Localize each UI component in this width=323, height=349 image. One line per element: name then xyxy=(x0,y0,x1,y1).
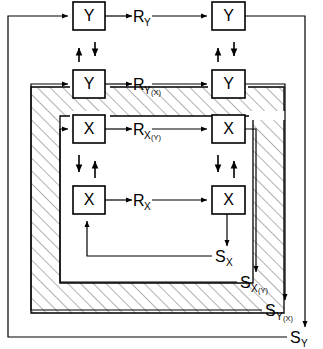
label-s-y: S Y xyxy=(290,329,308,349)
node-x-mid-left[interactable]: X xyxy=(73,115,105,143)
node-x-mid-right[interactable]: X xyxy=(212,115,245,143)
label-r-x: R X xyxy=(133,192,151,212)
node-label: X xyxy=(223,120,234,137)
label-r-y: R Y xyxy=(133,8,151,28)
loop-sx xyxy=(87,214,227,256)
diagram-canvas: Y Y Y Y X X X xyxy=(0,0,323,349)
block-diagram: Y Y Y Y X X X xyxy=(0,0,323,349)
svg-text:(Y): (Y) xyxy=(258,286,269,295)
svg-text:R: R xyxy=(133,76,145,93)
node-label: Y xyxy=(223,7,234,24)
svg-text:S: S xyxy=(240,274,251,291)
svg-text:R: R xyxy=(133,8,145,25)
node-label: X xyxy=(223,191,234,208)
svg-text:R: R xyxy=(133,192,145,209)
svg-text:X: X xyxy=(144,130,151,141)
svg-text:X: X xyxy=(251,283,258,294)
node-label: Y xyxy=(84,7,95,24)
svg-text:X: X xyxy=(226,257,233,268)
node-y-top-left[interactable]: Y xyxy=(73,2,105,30)
svg-text:S: S xyxy=(215,248,226,265)
node-label: X xyxy=(84,120,95,137)
sx-return-path xyxy=(87,221,212,256)
svg-text:S: S xyxy=(265,302,276,319)
node-y-mid-left[interactable]: Y xyxy=(73,70,105,98)
label-s-x: S X xyxy=(215,248,233,268)
svg-text:(X): (X) xyxy=(151,88,162,97)
svg-text:Y: Y xyxy=(144,17,151,28)
svg-text:R: R xyxy=(133,121,145,138)
svg-text:X: X xyxy=(144,201,151,212)
node-x-bot-right[interactable]: X xyxy=(212,186,245,214)
label-r-x-y: R X (Y) xyxy=(133,121,162,142)
svg-text:Y: Y xyxy=(144,85,151,96)
svg-text:(X): (X) xyxy=(283,314,294,323)
svg-text:S: S xyxy=(290,329,301,346)
node-x-bot-left[interactable]: X xyxy=(73,186,105,214)
svg-text:(Y): (Y) xyxy=(151,133,162,142)
svg-text:Y: Y xyxy=(301,338,308,349)
node-y-mid-right[interactable]: Y xyxy=(212,70,245,98)
node-label: Y xyxy=(84,75,95,92)
svg-text:Y: Y xyxy=(276,311,283,322)
node-label: X xyxy=(84,191,95,208)
node-y-top-right[interactable]: Y xyxy=(212,2,245,30)
node-label: Y xyxy=(223,75,234,92)
